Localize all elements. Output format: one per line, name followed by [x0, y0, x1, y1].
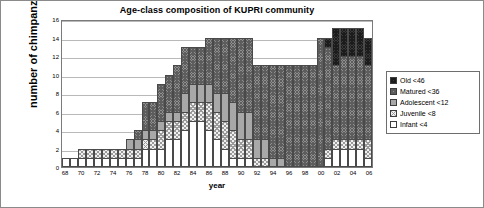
bar-segment-juvenile	[181, 112, 189, 131]
bar-segment-adolescent	[205, 84, 213, 103]
bar-column	[213, 21, 221, 167]
legend-item-juvenile: Juvenile <8	[390, 108, 477, 119]
bar-segment-matured	[189, 47, 197, 84]
bar-column	[356, 21, 364, 167]
bar-segment-matured	[317, 38, 325, 168]
bar-segment-adolescent	[229, 102, 237, 130]
bar-segment-juvenile	[126, 149, 134, 158]
bar-segment-matured	[165, 75, 173, 112]
legend-swatch-infant	[390, 121, 397, 128]
bar-segment-matured	[213, 38, 221, 94]
bar-segment-infant	[213, 139, 221, 167]
bar-column	[317, 21, 325, 167]
bar-segment-infant	[94, 158, 102, 167]
legend-label-matured: Matured <36	[400, 87, 440, 96]
legend-swatch-adolescent	[390, 99, 397, 106]
bar-segment-juvenile	[134, 149, 142, 158]
bar-segment-matured	[364, 65, 372, 139]
bar-column	[134, 21, 142, 167]
legend-item-infant: Infant <4	[390, 119, 477, 130]
bar-segment-matured	[237, 38, 245, 112]
bar-segment-adolescent	[165, 112, 173, 121]
plot-area	[61, 20, 373, 168]
bar-column	[78, 21, 86, 167]
legend-label-infant: Infant <4	[400, 120, 427, 129]
bar-segment-old	[356, 28, 364, 56]
bar-segment-matured	[301, 65, 309, 167]
bar-column	[364, 21, 372, 167]
bar-column	[181, 21, 189, 167]
bar-segment-infant	[110, 158, 118, 167]
bar-column	[70, 21, 78, 167]
bar-segment-infant	[356, 149, 364, 168]
bar-segment-matured	[205, 38, 213, 84]
bar-segment-adolescent	[173, 112, 181, 121]
bar-segment-adolescent	[181, 93, 189, 112]
bar-segment-matured	[181, 47, 189, 93]
bar-column	[261, 21, 269, 167]
bar-segment-matured	[142, 102, 150, 130]
bar-segment-juvenile	[261, 158, 269, 167]
y-axis-tick-labels: 0246810121416	[37, 20, 59, 168]
bar-segment-infant	[86, 158, 94, 167]
y-tick-label: 16	[41, 17, 59, 23]
bar-column	[149, 21, 157, 167]
bar-segment-infant	[348, 149, 356, 168]
bar-segment-infant	[237, 158, 245, 167]
bar-column	[142, 21, 150, 167]
bar-segment-adolescent	[134, 139, 142, 148]
y-tick-label: 12	[41, 54, 59, 60]
bar-segment-juvenile	[324, 149, 332, 158]
legend-label-old: Old <46	[400, 76, 425, 85]
legend-swatch-matured	[390, 88, 397, 95]
chart-figure: Age-class composition of KUPRI community…	[0, 0, 484, 208]
bar-column	[173, 21, 181, 167]
y-tick-label: 4	[41, 128, 59, 134]
bar-segment-juvenile	[245, 139, 253, 158]
bar-segment-matured	[293, 65, 301, 167]
bar-segment-infant	[62, 158, 70, 167]
bar-segment-infant	[142, 149, 150, 168]
legend-label-juvenile: Juvenile <8	[400, 109, 436, 118]
bar-column	[285, 21, 293, 167]
bar-segment-matured	[149, 102, 157, 130]
bar-column	[332, 21, 340, 167]
bar-column	[269, 21, 277, 167]
bar-segment-old	[324, 38, 332, 47]
bar-segment-infant	[173, 139, 181, 167]
bar-column	[301, 21, 309, 167]
bar-segment-adolescent	[221, 93, 229, 121]
bar-segment-adolescent	[157, 121, 165, 130]
bar-segment-infant	[340, 149, 348, 168]
bar-segment-infant	[324, 158, 332, 167]
bar-segment-infant	[181, 130, 189, 167]
bar-segment-infant	[78, 158, 86, 167]
legend-item-matured: Matured <36	[390, 86, 477, 97]
bar-column	[86, 21, 94, 167]
bar-segment-infant	[332, 149, 340, 168]
bar-segment-infant	[245, 158, 253, 167]
bar-segment-matured	[285, 65, 293, 167]
bar-column	[126, 21, 134, 167]
bar-segment-juvenile	[118, 149, 126, 158]
x-axis-title: year	[61, 181, 373, 190]
bar-segment-adolescent	[253, 139, 261, 158]
bar-column	[324, 21, 332, 167]
bar-segment-adolescent	[142, 130, 150, 139]
bar-column	[62, 21, 70, 167]
bar-column	[348, 21, 356, 167]
bar-segment-infant	[157, 149, 165, 168]
bar-segment-matured	[332, 65, 340, 139]
bar-segment-matured	[340, 56, 348, 139]
bar-segment-adolescent	[245, 112, 253, 140]
y-tick-label: 2	[41, 147, 59, 153]
bar-column	[245, 21, 253, 167]
legend-item-old: Old <46	[390, 75, 477, 86]
bar-segment-adolescent	[189, 84, 197, 103]
bar-segment-matured	[348, 56, 356, 139]
bar-segment-juvenile	[221, 121, 229, 149]
bar-column	[253, 21, 261, 167]
y-tick-label: 14	[41, 36, 59, 42]
bar-segment-adolescent	[197, 84, 205, 103]
legend-swatch-old	[390, 77, 397, 84]
